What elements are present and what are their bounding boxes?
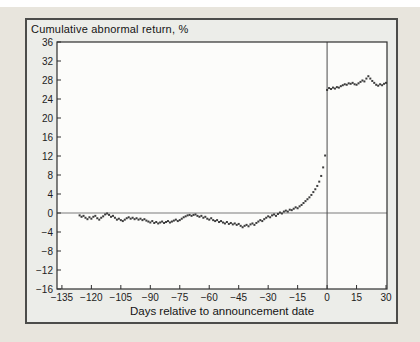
y-tick-label: −16 — [36, 284, 53, 295]
y-tick-label: −12 — [36, 265, 53, 276]
data-point — [124, 219, 126, 221]
data-point — [159, 222, 161, 224]
data-point — [236, 224, 238, 226]
x-tick-label: 30 — [380, 292, 392, 303]
data-point — [92, 216, 94, 218]
y-tick-label: −8 — [42, 246, 54, 257]
data-point — [301, 204, 303, 206]
data-point — [328, 87, 330, 89]
data-point — [108, 214, 110, 216]
data-point — [340, 85, 342, 87]
data-point — [267, 215, 269, 217]
data-point — [130, 218, 132, 220]
y-tick-label: 12 — [42, 151, 54, 162]
data-point — [218, 221, 220, 223]
data-point — [216, 219, 218, 221]
data-point — [377, 85, 379, 87]
data-point — [175, 219, 177, 221]
data-point — [177, 220, 179, 222]
data-point — [299, 205, 301, 207]
data-point — [96, 217, 98, 219]
data-point — [263, 218, 265, 220]
data-point — [281, 212, 283, 214]
data-point — [122, 220, 124, 222]
data-point — [308, 196, 310, 198]
data-point — [149, 222, 151, 224]
data-point — [88, 216, 90, 218]
data-point — [261, 220, 263, 222]
data-point — [246, 224, 248, 226]
x-axis-title: Days relative to announcement date — [57, 305, 387, 317]
data-point — [324, 155, 326, 157]
data-point — [293, 208, 295, 210]
data-point — [189, 214, 191, 216]
data-point — [79, 214, 81, 216]
data-point — [234, 222, 236, 224]
data-point — [322, 166, 324, 168]
data-point — [155, 221, 157, 223]
y-tick-label: 8 — [47, 170, 53, 181]
data-point — [116, 219, 118, 221]
data-point — [136, 217, 138, 219]
data-point — [367, 75, 369, 77]
data-point — [381, 84, 383, 86]
data-point — [358, 82, 360, 84]
data-point — [312, 191, 314, 193]
data-point — [224, 222, 226, 224]
data-point — [226, 221, 228, 223]
data-point — [112, 215, 114, 217]
data-point — [200, 215, 202, 217]
y-tick-label: 28 — [42, 75, 54, 86]
data-point — [194, 213, 196, 215]
data-point — [179, 219, 181, 221]
y-tick-label: 20 — [42, 113, 54, 124]
data-point — [334, 88, 336, 90]
data-point — [271, 214, 273, 216]
data-point — [163, 222, 165, 224]
data-point — [295, 206, 297, 208]
data-point — [139, 218, 141, 220]
data-point — [210, 217, 212, 219]
data-point — [275, 215, 277, 217]
data-point — [344, 83, 346, 85]
data-point — [86, 218, 88, 220]
data-point — [143, 218, 145, 220]
data-point — [230, 222, 232, 224]
data-point — [81, 216, 83, 218]
data-point — [279, 212, 281, 214]
data-point — [373, 82, 375, 84]
x-tick-label: −90 — [142, 292, 159, 303]
x-tick-label: −105 — [110, 292, 133, 303]
data-point — [193, 214, 195, 216]
data-point — [350, 83, 352, 85]
data-point — [253, 224, 255, 226]
data-point — [255, 222, 257, 224]
data-point — [348, 82, 350, 84]
data-point — [242, 226, 244, 228]
data-point — [244, 225, 246, 227]
data-point — [90, 218, 92, 220]
data-point — [106, 212, 108, 214]
data-point — [169, 222, 171, 224]
data-point — [365, 78, 367, 80]
y-tick-label: −4 — [42, 227, 54, 238]
data-point — [369, 78, 371, 80]
data-point — [326, 89, 328, 91]
data-point — [204, 216, 206, 218]
data-point — [342, 84, 344, 86]
data-point — [306, 198, 308, 200]
data-point — [128, 216, 130, 218]
data-point — [273, 213, 275, 215]
data-point — [171, 221, 173, 223]
data-point — [138, 219, 140, 221]
x-tick-label: −45 — [230, 292, 247, 303]
data-point — [167, 220, 169, 222]
data-point — [251, 222, 253, 224]
data-point — [257, 221, 259, 223]
data-point — [371, 80, 373, 82]
data-point — [304, 200, 306, 202]
car-event-study-chart: −135−120−105−90−75−60−45−30−150153036322… — [0, 0, 420, 342]
y-tick-label: 36 — [42, 37, 54, 48]
data-point — [98, 219, 100, 221]
y-tick-label: 16 — [42, 132, 54, 143]
